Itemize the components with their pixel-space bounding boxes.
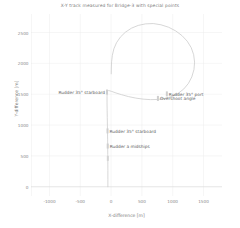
plot-area: 05001000150020002500 -1000-5000500100015… [31, 14, 222, 196]
annotation-label: Rudder 35° starboard [110, 128, 156, 133]
x-tick-label: 500 [138, 199, 146, 204]
x-tick-label: 1000 [167, 199, 178, 204]
x-tick-label: 0 [110, 199, 113, 204]
chart-title: X-Y track measured for Bridge-3 with spe… [0, 3, 240, 8]
x-tick-label: -500 [76, 199, 86, 204]
track-line [107, 24, 195, 187]
gridlines [31, 14, 222, 196]
annotation-label: Rudder 35° starboard [59, 90, 105, 95]
y-tick-label: 500 [21, 153, 29, 158]
y-axis-label: Y-difference [m] [14, 69, 19, 129]
y-tick-label: 2000 [18, 61, 29, 66]
chart-figure: X-Y track measured for Bridge-3 with spe… [0, 0, 240, 228]
plot-canvas [31, 14, 222, 196]
annotation-label: Overshoot angle [160, 96, 196, 101]
y-tick-label: 1000 [18, 123, 29, 128]
y-tick-label: 1500 [18, 92, 29, 97]
y-tick-label: 0 [26, 184, 29, 189]
annotation-label: Rudder a midships [110, 144, 150, 149]
y-tick-label: 2500 [18, 30, 29, 35]
axis-lines [31, 14, 222, 196]
x-tick-label: 1500 [198, 199, 209, 204]
x-tick-label: -1000 [43, 199, 55, 204]
x-axis-label: X-difference [m] [31, 213, 222, 218]
